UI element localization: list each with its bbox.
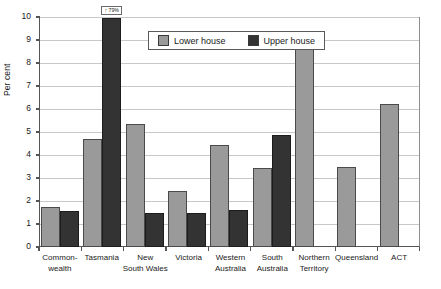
- y-axis-tick-label: 3: [7, 173, 31, 182]
- x-axis-tick-mark: [419, 247, 420, 251]
- x-axis-label-line: South: [251, 253, 293, 264]
- bar-series-container: ↑ 79%: [39, 17, 420, 247]
- x-axis-label-3: Victoria: [168, 253, 210, 274]
- bar-group: [293, 17, 335, 247]
- x-axis-label-8: ACT: [378, 253, 420, 274]
- x-axis-tick-cell: [81, 247, 123, 252]
- y-axis-tick-label: 5: [7, 127, 31, 136]
- x-axis-tick-mark: [250, 247, 251, 251]
- bar-lower-house: [126, 124, 145, 247]
- bar-lower-house: [83, 139, 102, 247]
- x-axis-tick-cell: [251, 247, 293, 252]
- bar-group: [39, 17, 81, 247]
- x-axis-label-0: Common-wealth: [39, 253, 81, 274]
- legend-swatch-upper-house-icon: [248, 35, 259, 46]
- bar-upper-house: [229, 210, 248, 247]
- x-axis-label-line: Victoria: [168, 253, 210, 264]
- bar-lower-house: [41, 207, 60, 247]
- x-axis-tick-cell: [124, 247, 166, 252]
- bar-group: ↑ 79%: [81, 17, 123, 247]
- bar-lower-house: [168, 191, 187, 247]
- x-axis-tick-cell: [335, 247, 377, 252]
- bar-group: [335, 17, 377, 247]
- x-axis-tick-mark: [81, 247, 82, 251]
- x-axis-tick-cell: [293, 247, 335, 252]
- y-axis-tick-label: 7: [7, 81, 31, 90]
- bar-lower-house: [253, 168, 272, 247]
- bar-group: [166, 17, 208, 247]
- x-axis-label-4: WesternAustralia: [210, 253, 252, 274]
- x-axis-tick-mark: [335, 247, 336, 251]
- x-axis-tick-mark: [208, 247, 209, 251]
- bar-group: [124, 17, 166, 247]
- y-axis-tick-label: 10: [7, 12, 31, 21]
- x-axis-label-2: NewSouth Wales: [123, 253, 168, 274]
- x-axis-label-line: wealth: [39, 264, 81, 275]
- bar-chart: Per cent 012345678910 ↑ 79% Lower house …: [0, 0, 441, 289]
- x-axis-label-line: New: [123, 253, 168, 264]
- x-axis-label-line: Australia: [210, 264, 252, 275]
- y-axis-tick-label: 6: [7, 104, 31, 113]
- x-axis-label-line: Northern: [293, 253, 335, 264]
- legend-label-upper-house: Upper house: [264, 36, 316, 46]
- overflow-annotation: ↑ 79%: [101, 6, 121, 15]
- bar-upper-house: [102, 18, 121, 247]
- x-axis-label-line: ACT: [378, 253, 420, 264]
- bar-group: [378, 17, 420, 247]
- x-axis-label-line: South Wales: [123, 264, 168, 275]
- bar-lower-house: [380, 104, 399, 247]
- legend-swatch-lower-house-icon: [158, 35, 169, 46]
- x-axis-label-5: SouthAustralia: [251, 253, 293, 274]
- bar-upper-house: [187, 213, 206, 248]
- y-axis-tick-label: 1: [7, 219, 31, 228]
- x-axis-tick-mark: [123, 247, 124, 251]
- x-axis-label-line: Territory: [293, 264, 335, 275]
- x-axis-tick-cell: [166, 247, 208, 252]
- y-axis-tick-label: 0: [7, 242, 31, 251]
- x-axis-tick-mark: [38, 247, 39, 251]
- x-axis-label-1: Tasmania: [81, 253, 123, 274]
- legend-label-lower-house: Lower house: [174, 36, 226, 46]
- bar-upper-house: [60, 211, 79, 247]
- bar-group: [251, 17, 293, 247]
- bar-upper-house: [145, 213, 164, 248]
- x-axis-tick-mark: [165, 247, 166, 251]
- y-axis-tick-label: 4: [7, 150, 31, 159]
- x-axis-label-line: Common-: [39, 253, 81, 264]
- y-axis-tick-label: 9: [7, 35, 31, 44]
- x-axis-tick-mark: [377, 247, 378, 251]
- x-axis-label-line: Queensland: [335, 253, 378, 264]
- y-axis-tick-label: 2: [7, 196, 31, 205]
- x-axis-label-7: Queensland: [335, 253, 378, 274]
- legend-item-upper-house: Upper house: [248, 35, 316, 46]
- chart-legend: Lower house Upper house: [148, 31, 325, 50]
- x-axis-labels: Common-wealthTasmaniaNewSouth WalesVicto…: [39, 253, 420, 274]
- y-axis-tick-label: 8: [7, 58, 31, 67]
- x-axis-tick-mark: [292, 247, 293, 251]
- bar-upper-house: [272, 135, 291, 247]
- bar-lower-house: [295, 49, 314, 247]
- x-axis-label-6: NorthernTerritory: [293, 253, 335, 274]
- bar-lower-house: [337, 167, 356, 248]
- bar-group: [208, 17, 250, 247]
- x-axis-tick-cell: [378, 247, 420, 252]
- x-axis-tick-cell: [208, 247, 250, 252]
- x-axis-label-line: Tasmania: [81, 253, 123, 264]
- legend-item-lower-house: Lower house: [158, 35, 226, 46]
- x-axis-ticks: [39, 247, 420, 252]
- x-axis-label-line: Western: [210, 253, 252, 264]
- x-axis-tick-cell: [39, 247, 81, 252]
- bar-lower-house: [210, 145, 229, 247]
- x-axis-label-line: Australia: [251, 264, 293, 275]
